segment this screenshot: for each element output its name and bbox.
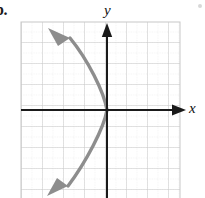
y-axis-label: y bbox=[104, 3, 111, 18]
coordinate-plot bbox=[0, 0, 205, 198]
graph-figure: b. bbox=[0, 0, 205, 198]
x-axis-label: x bbox=[189, 101, 196, 116]
